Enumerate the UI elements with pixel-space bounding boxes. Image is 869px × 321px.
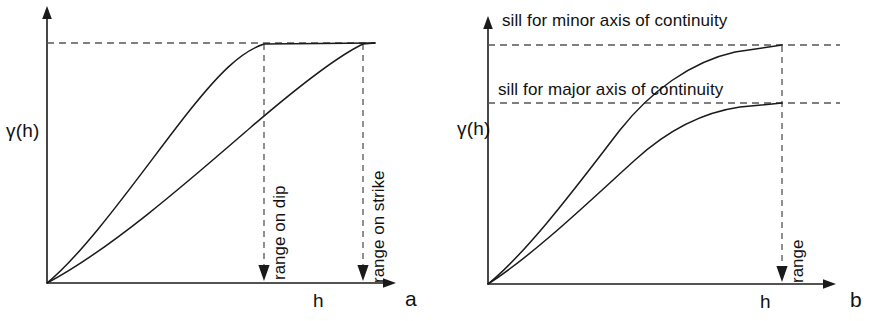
x-axis-label-b: h (760, 292, 771, 311)
panel-b-label: b (850, 289, 862, 310)
curve-major-axis (488, 103, 782, 284)
range-on-strike-marker (357, 44, 368, 281)
panel-a: γ(h) h range on dip range on strike a (0, 0, 435, 321)
variogram-figure: γ(h) h range on dip range on strike a (0, 0, 869, 321)
y-axis-label-b: γ(h) (457, 119, 491, 138)
curve-on-strike (47, 43, 375, 283)
y-axis-b (483, 16, 493, 284)
range-label-b: range (789, 240, 806, 283)
panel-b: sill for minor axis of continuity sill f… (435, 0, 869, 321)
sill-major-label: sill for major axis of continuity (498, 81, 723, 98)
panel-a-label: a (405, 288, 417, 309)
range-on-dip-label: range on dip (271, 185, 288, 280)
y-axis-label-a: γ(h) (6, 121, 40, 140)
range-marker-b (776, 46, 787, 282)
range-on-dip-marker (258, 44, 269, 281)
range-on-strike-label: range on strike (370, 171, 387, 283)
y-axis-a (42, 6, 52, 283)
x-axis-label-a: h (313, 291, 324, 310)
x-axis-a (47, 278, 396, 288)
curve-on-dip (47, 43, 375, 283)
sill-minor-label: sill for minor axis of continuity (502, 12, 727, 29)
x-axis-b (488, 279, 836, 289)
